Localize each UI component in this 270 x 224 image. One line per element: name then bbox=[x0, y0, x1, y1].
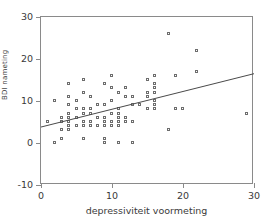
y-tick-label: 10 bbox=[21, 96, 33, 106]
x-tick-label: 0 bbox=[38, 191, 44, 201]
x-tick-mark bbox=[254, 183, 255, 188]
y-axis-title: BDI nameting bbox=[2, 50, 9, 100]
x-axis-title: depressiviteit voormeting bbox=[40, 206, 253, 216]
y-tick-mark bbox=[36, 17, 41, 18]
y-tick-mark bbox=[36, 143, 41, 144]
y-tick-label: 20 bbox=[21, 54, 33, 64]
y-tick-label: 0 bbox=[27, 138, 33, 148]
x-tick-mark bbox=[112, 183, 113, 188]
y-tick-label: 30 bbox=[21, 12, 33, 22]
regression-line bbox=[41, 17, 254, 185]
y-tick-mark bbox=[36, 101, 41, 102]
plot-frame: 3020100-10 0102030 bbox=[40, 16, 253, 184]
y-tick-label: -10 bbox=[17, 180, 33, 190]
x-tick-mark bbox=[41, 183, 42, 188]
x-tick-label: 10 bbox=[106, 191, 118, 201]
scatter-plot-figure: 3020100-10 0102030 BDI nameting depressi… bbox=[0, 0, 270, 224]
x-tick-label: 20 bbox=[177, 191, 189, 201]
x-tick-mark bbox=[183, 183, 184, 188]
x-tick-label: 30 bbox=[248, 191, 260, 201]
y-tick-mark bbox=[36, 59, 41, 60]
